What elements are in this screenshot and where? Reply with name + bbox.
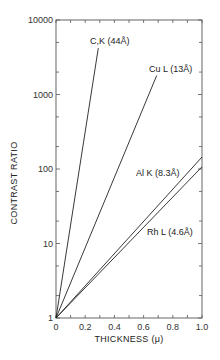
y-axis-title: CONTRAST RATIO [9, 142, 19, 225]
x-tick-label: 0.8 [167, 322, 180, 332]
series-label-alk: Al K (8.3Å) [136, 168, 180, 178]
y-tick-label: 100 [38, 164, 53, 174]
x-tick-label: 1.0 [196, 322, 209, 332]
series-label-ck: C,K (44Å) [90, 36, 130, 46]
y-tick-label: 10000 [28, 15, 53, 25]
y-tick-label: 1 [48, 313, 53, 323]
contrast-ratio-chart: 00.20.40.60.81.0110100100010000 THICKNES… [0, 0, 220, 360]
series-line-1 [56, 76, 157, 319]
x-tick-label: 0 [53, 322, 58, 332]
x-tick-label: 0.4 [108, 322, 121, 332]
y-tick-label: 10 [43, 239, 53, 249]
series-line-0 [56, 48, 98, 318]
series-lines [56, 48, 202, 318]
y-tick-label: 1000 [33, 90, 53, 100]
series-label-rhl: Rh L (4.6Å) [147, 227, 193, 237]
x-tick-label: 0.2 [79, 322, 92, 332]
series-label-cul: Cu L (13Å) [149, 64, 192, 74]
x-tick-label: 0.6 [137, 322, 150, 332]
x-axis-title: THICKNESS (μ) [94, 334, 163, 344]
axis-ticks: 00.20.40.60.81.0110100100010000 [28, 15, 208, 332]
series-line-3 [56, 167, 202, 318]
